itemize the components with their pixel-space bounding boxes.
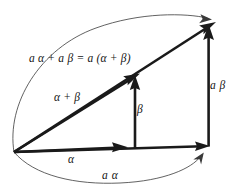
label-beta: β bbox=[137, 104, 143, 116]
label-alpha-plus-beta: α + β bbox=[54, 92, 80, 104]
label-a-alpha: a α bbox=[102, 170, 118, 182]
vector-a-alpha-plus-beta bbox=[14, 22, 216, 152]
scaling-arc-upper bbox=[13, 15, 207, 152]
vector-diagram-figure: a α + a β = a (α + β) α + β β a β α a α bbox=[0, 0, 239, 194]
diagram-canvas bbox=[0, 0, 239, 194]
label-a-beta: a β bbox=[210, 80, 226, 92]
label-sum-identity: a α + a β = a (α + β) bbox=[29, 53, 131, 65]
vector-alpha-arrowhead bbox=[112, 142, 128, 152]
scaling-arc-upper-arrowhead bbox=[199, 14, 212, 23]
vector-a-alpha-plus-beta-shaft bbox=[14, 27, 208, 152]
label-alpha: α bbox=[68, 154, 74, 166]
scaling-arc-upper-group bbox=[13, 14, 212, 152]
